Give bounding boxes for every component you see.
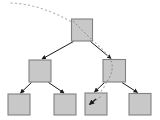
node-leaf-2[interactable] xyxy=(54,94,76,115)
traversal-path xyxy=(11,3,112,99)
node-leaf-1[interactable] xyxy=(8,94,30,115)
tree-diagram-canvas xyxy=(0,0,160,120)
node-leaf-3[interactable] xyxy=(85,93,107,115)
edge-root-to-left-middle xyxy=(42,42,74,60)
edge-right-middle-to-leaf-3 xyxy=(95,83,105,93)
node-leaf-4[interactable] xyxy=(129,94,151,116)
tree-nodes xyxy=(8,19,151,115)
edge-right-middle-to-leaf-4 xyxy=(122,83,138,93)
edge-left-middle-to-leaf-1 xyxy=(21,83,32,94)
tree-diagram xyxy=(0,0,160,120)
node-right-middle[interactable] xyxy=(103,60,126,83)
traversal-path-entry-segment xyxy=(11,3,72,22)
edge-left-middle-to-leaf-2 xyxy=(49,83,65,94)
node-left-middle[interactable] xyxy=(29,60,51,82)
